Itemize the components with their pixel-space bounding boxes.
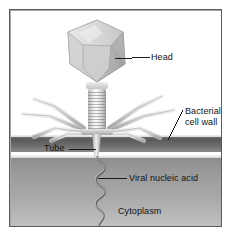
label-bacterial-cell-wall-line1: Bacterial [185,106,221,116]
phage-head [67,19,127,83]
figure-canvas: Head Bacterial cell wall Tube Viral nucl… [0,0,234,241]
viral-nucleic-acid-strand [90,156,120,226]
label-viral-nucleic-acid: Viral nucleic acid [129,173,198,183]
label-cytoplasm: Cytoplasm [118,206,161,216]
label-bacterial-cell-wall-line2: cell wall [185,117,217,127]
phage-collar [86,82,108,89]
phage-tail-sheath [88,89,106,130]
label-head: Head [151,52,173,62]
label-tube: Tube [44,143,65,153]
diagram-frame: Head Bacterial cell wall Tube Viral nucl… [9,9,222,227]
